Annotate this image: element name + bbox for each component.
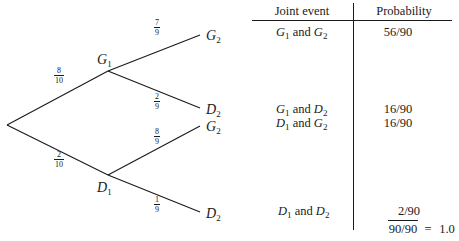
svg-text:9: 9	[155, 137, 159, 146]
svg-text:2: 2	[155, 92, 159, 101]
branch-g1-to-d2	[108, 71, 200, 108]
leaf-label-d2-bottom: D2	[205, 206, 221, 223]
svg-text:10: 10	[55, 160, 63, 169]
joint-event-d1-g2: D1 and G2	[275, 116, 327, 132]
branch-probability-8-10: 8 10	[54, 66, 64, 85]
branch-d1-to-g2	[108, 126, 200, 175]
branch-probability-2-9: 2 9	[154, 92, 160, 111]
header-joint-event: Joint event	[275, 4, 330, 18]
svg-text:9: 9	[155, 205, 159, 214]
probability-g1-g2: 56/90	[384, 25, 412, 39]
probability-d1-d2: 2/90	[398, 204, 420, 218]
svg-text:9: 9	[155, 28, 159, 37]
branch-probability-8-9: 8 9	[154, 127, 160, 146]
branch-probability-1-9: 1 9	[154, 195, 160, 214]
joint-event-g1-g2: G1 and G2	[276, 25, 327, 41]
leaf-label-g2-top: G2	[206, 28, 221, 45]
svg-text:8: 8	[57, 66, 61, 75]
header-probability: Probability	[376, 4, 432, 18]
node-label-d1: D1	[96, 180, 112, 197]
svg-text:8: 8	[155, 127, 159, 136]
branch-probability-7-9: 7 9	[154, 18, 160, 37]
joint-event-d1-d2: D1 and D2	[277, 204, 329, 220]
probability-tree: G1 D1 G2 D2 G2 D2 8 10 2 10 7	[7, 18, 221, 223]
node-label-g1: G1	[97, 52, 112, 69]
leaf-label-g2-lower: G2	[206, 119, 221, 136]
svg-text:7: 7	[155, 18, 159, 27]
total-probability-value: 90/90	[389, 222, 417, 236]
svg-text:1: 1	[155, 195, 159, 204]
svg-text:10: 10	[55, 76, 63, 85]
svg-text:2: 2	[57, 150, 61, 159]
probability-tree-diagram: G1 D1 G2 D2 G2 D2 8 10 2 10 7	[0, 0, 459, 241]
joint-probability-table: Joint event Probability G1 and G2 56/90 …	[252, 3, 455, 236]
svg-text:9: 9	[155, 102, 159, 111]
branch-d1-to-d2	[108, 175, 200, 212]
probability-g1-d2: 16/90	[384, 102, 412, 116]
probability-d1-g2: 16/90	[384, 116, 412, 130]
branch-g1-to-g2	[108, 35, 200, 71]
leaf-label-d2-upper: D2	[205, 102, 221, 119]
total-probability-result: 1.0	[439, 222, 455, 236]
total-equals-sign: =	[424, 222, 431, 236]
